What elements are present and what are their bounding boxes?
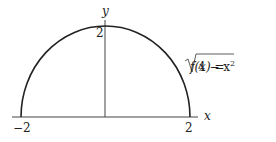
- y-tick-2: 2: [96, 26, 104, 40]
- radicand: 4 − x: [198, 60, 230, 74]
- y-axis-label: y: [102, 4, 109, 18]
- x-tick-neg2: −2: [13, 121, 31, 135]
- semicircle-curve: [21, 26, 190, 117]
- x-axis-label: x: [204, 109, 211, 123]
- exponent: 2: [230, 59, 235, 68]
- radicand-text: 4 − x2: [198, 59, 235, 74]
- x-tick-pos2: 2: [185, 121, 193, 135]
